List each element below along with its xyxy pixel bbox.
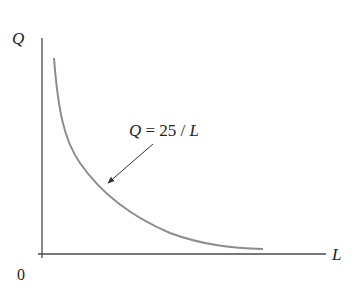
annotation-arrow — [108, 144, 153, 183]
x-axis-label: L — [331, 245, 341, 264]
equation-middle: = 25 / — [141, 121, 189, 140]
equation-rhs: L — [189, 121, 199, 140]
isoquant-curve — [54, 58, 263, 249]
curve-equation-label: Q = 25 / L — [129, 121, 199, 140]
y-axis-label: Q — [12, 29, 24, 48]
equation-lhs: Q — [129, 121, 141, 140]
isoquant-chart: Q L 0 Q = 25 / L — [0, 0, 360, 295]
origin-label: 0 — [17, 266, 25, 283]
